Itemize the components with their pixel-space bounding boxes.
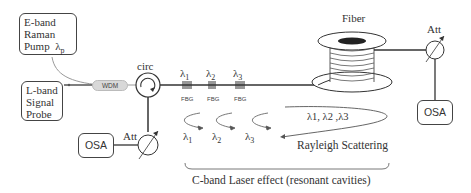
- fbg-lambda-3: λ3: [233, 67, 242, 84]
- reflection-lambda-2: λ2: [212, 130, 221, 147]
- reflection-lambda-1: λ1: [183, 130, 192, 147]
- raman-pump-box: E-band Raman Pump λp: [19, 13, 77, 55]
- fbg-label-1: FBG: [181, 93, 193, 105]
- fbg-label-2: FBG: [207, 93, 219, 105]
- probe-line-1: L-band: [26, 84, 58, 96]
- osa-right-box: OSA: [417, 100, 453, 125]
- cavity-brace: [185, 163, 389, 169]
- fbg-lambda-1: λ1: [180, 67, 189, 84]
- rayleigh-label: Rayleigh Scattering: [297, 139, 388, 151]
- fiber-label: Fiber: [342, 12, 365, 24]
- pump-line-2: Raman: [24, 28, 72, 40]
- fiber-spool-icon: [312, 32, 392, 92]
- pump-line-1: E-band: [24, 16, 72, 28]
- signal-probe-box: L-band Signal Probe: [21, 81, 63, 121]
- circulator-icon: [136, 73, 160, 97]
- probe-line-2: Signal: [26, 96, 58, 108]
- rayleigh-wavelengths: λ1, λ2 ,λ3: [307, 111, 349, 123]
- attenuator-right-label: Att: [427, 23, 441, 35]
- fbg-label-3: FBG: [234, 93, 246, 105]
- osa-left-box: OSA: [78, 133, 114, 158]
- reflection-arrows: [184, 113, 271, 130]
- attenuator-right-icon: [426, 36, 444, 62]
- attenuator-left-icon: [138, 131, 158, 159]
- fbg-lambda-2: λ2: [206, 67, 215, 84]
- reflection-lambda-3: λ3: [245, 130, 254, 147]
- attenuator-left-label: Att: [123, 130, 137, 142]
- pump-line-3: Pump λp: [24, 40, 72, 57]
- probe-line-3: Probe: [26, 108, 58, 120]
- wdm-coupler: WDM: [92, 80, 128, 91]
- cavity-caption: C-band Laser effect (resonant cavities): [192, 174, 371, 186]
- circulator-label: circ: [137, 60, 153, 72]
